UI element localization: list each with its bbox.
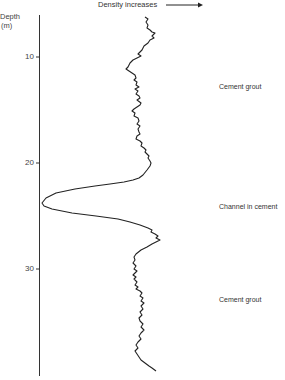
annotation-upper-cement-grout: Cement grout — [219, 83, 261, 90]
depth-label-line2: (m) — [1, 21, 21, 30]
tick-label-20: 20 — [14, 158, 34, 167]
arrow-right-icon — [166, 3, 203, 8]
annotation-lower-cement-grout: Cement grout — [219, 296, 261, 303]
tick-label-30: 30 — [14, 264, 34, 273]
depth-label-line1: Depth — [0, 12, 20, 21]
density-log-chart — [0, 0, 285, 380]
tick-label-10: 10 — [14, 52, 34, 61]
annotation-channel-in-cement: Channel in cement — [219, 203, 277, 210]
density-trace — [42, 17, 160, 371]
